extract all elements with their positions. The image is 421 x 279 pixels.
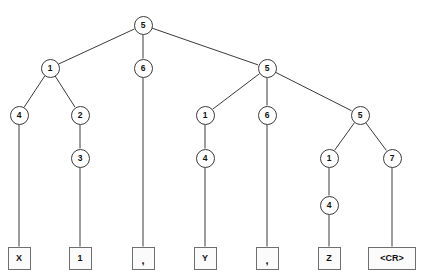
tree-edge [335,123,355,151]
tree-node-7: 7 [383,149,402,168]
tree-node-1: 1 [320,149,339,168]
tree-node-4: 4 [320,196,339,215]
tree-edge [24,76,45,107]
tree-leaf-box: Z [318,247,341,270]
tree-leaf-box: Y [194,247,217,270]
tree-node-2: 2 [71,106,90,125]
tree-node-1: 1 [196,106,215,125]
tree-node-1: 1 [41,59,60,78]
tree-leaf-box: , [256,247,279,270]
tree-node-4: 4 [10,106,29,125]
tree-diagram-canvas: 51654216534174X1,Y,Z<CR> [0,0,421,279]
tree-leaf-box: <CR> [368,247,416,270]
tree-edge [55,76,75,107]
tree-edge [366,123,387,151]
tree-leaf-box: 1 [69,247,92,270]
tree-leaf-box: , [132,247,155,270]
tree-node-6: 6 [258,106,277,125]
tree-node-5: 5 [134,16,153,35]
tree-edges-layer [0,0,421,279]
tree-node-6: 6 [134,59,153,78]
tree-edge [59,29,135,64]
tree-leaf-box: X [8,247,31,270]
tree-node-5: 5 [351,106,370,125]
tree-edge [152,28,258,65]
tree-node-4: 4 [196,149,215,168]
tree-node-5: 5 [258,59,277,78]
tree-node-3: 3 [71,149,90,168]
tree-edge [213,74,260,110]
tree-edge [275,72,351,110]
